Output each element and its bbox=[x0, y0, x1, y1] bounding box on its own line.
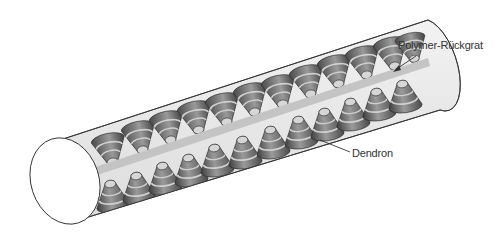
dendronized-polymer-diagram bbox=[0, 0, 496, 240]
label-dendron: Dendron bbox=[352, 147, 393, 159]
label-polymer-backbone: Polymer-Rückgrat bbox=[398, 39, 483, 51]
